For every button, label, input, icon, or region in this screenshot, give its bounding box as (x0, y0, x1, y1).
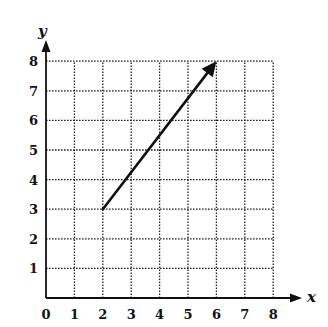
y-tick-label: 4 (29, 173, 38, 188)
x-axis-arrowhead-icon (290, 294, 302, 303)
data-series (103, 61, 217, 209)
grid-lines (46, 61, 273, 298)
y-tick-label: 8 (29, 54, 38, 69)
x-tick-label: 5 (183, 307, 192, 322)
y-tick-label: 1 (29, 261, 38, 276)
x-tick-label: 2 (98, 307, 107, 322)
y-axis-label: y (37, 22, 48, 40)
x-tick-label: 6 (212, 307, 221, 322)
vector-arrowhead-icon (202, 61, 217, 77)
y-tick-label: 7 (29, 84, 38, 99)
tick-labels: 01234567812345678 (29, 54, 278, 322)
coordinate-plane: x y 01234567812345678 (0, 0, 328, 327)
y-tick-label: 6 (29, 113, 38, 128)
vector-line (103, 73, 207, 209)
x-tick-label: 0 (41, 307, 50, 322)
x-tick-label: 1 (70, 307, 79, 322)
x-tick-label: 7 (240, 307, 249, 322)
x-tick-label: 3 (127, 307, 136, 322)
x-axis-label: x (306, 288, 317, 306)
y-tick-label: 2 (29, 232, 38, 247)
axes: x y (37, 22, 317, 306)
x-tick-label: 4 (155, 307, 164, 322)
x-tick-label: 8 (269, 307, 278, 322)
y-axis-arrowhead-icon (42, 40, 51, 52)
y-tick-label: 3 (29, 202, 38, 217)
y-tick-label: 5 (29, 143, 38, 158)
